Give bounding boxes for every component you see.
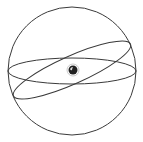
celestial-sphere-diagram [0, 0, 143, 142]
diagram-canvas [0, 0, 143, 142]
earth-icon [69, 66, 78, 75]
